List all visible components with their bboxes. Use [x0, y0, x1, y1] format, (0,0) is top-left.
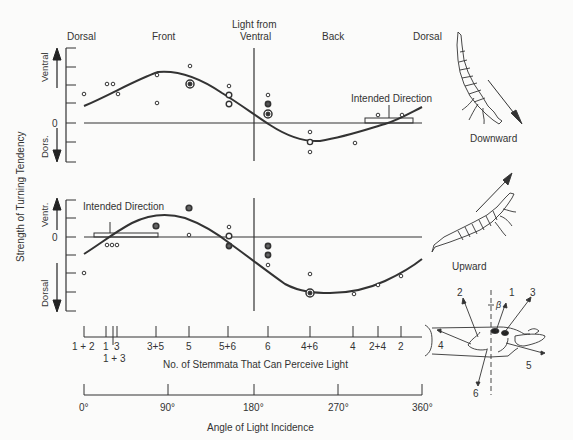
downward-insect-icon [457, 32, 522, 124]
tick-1+3: 1 + 3 [103, 353, 126, 364]
tick-5: 5 [186, 341, 192, 352]
label-light-from: Light from [232, 19, 276, 30]
tick-2+4: 2+4 [369, 341, 386, 352]
upward-label: Upward [452, 261, 486, 272]
angle-tick-360: 360° [412, 402, 433, 413]
stemma-label-4: 4 [438, 340, 444, 351]
label-front: Front [152, 31, 176, 42]
top-zero-label: 0 [52, 118, 58, 129]
stemma-label-5: 5 [526, 360, 532, 371]
top-intended-direction-label: Intended Direction [351, 93, 432, 104]
bottom-dorsal-arrow-icon [53, 263, 61, 312]
angle-axis [84, 384, 422, 395]
angle-axis-title: Angle of Light Incidence [207, 422, 314, 433]
tick-2: 2 [398, 341, 404, 352]
label-dorsal-left: Dorsal [67, 31, 96, 42]
angle-tick-180: 180° [243, 402, 264, 413]
label-dorsal-right: Dorsal [413, 31, 442, 42]
stemma-label-3: 3 [530, 287, 536, 298]
label-back: Back [322, 31, 345, 42]
y-axis-title: Strength of Turning Tendency [15, 132, 26, 262]
bottom-down-label: Dorsal [39, 280, 50, 307]
top-data-points [82, 64, 404, 154]
stemma-label-2: 2 [457, 287, 463, 298]
top-panel [66, 48, 422, 162]
stemma-label-1: 1 [509, 287, 515, 298]
upward-insect-icon [432, 173, 516, 252]
downward-label: Downward [470, 133, 517, 144]
tick-4: 4 [350, 341, 356, 352]
tick-6: 6 [265, 341, 271, 352]
tick-3+5: 3+5 [147, 341, 164, 352]
bottom-up-label: Ventr. [39, 203, 50, 227]
bottom-zero-label: 0 [52, 232, 58, 243]
bottom-data-points [82, 205, 403, 297]
tick-1: 1 [103, 341, 109, 352]
angle-tick-0: 0° [79, 402, 89, 413]
tick-3: 3 [114, 341, 120, 352]
angle-tick-270: 270° [328, 402, 349, 413]
head-diagram-labels: 2 1 3 4 5 6 β [438, 287, 536, 399]
figure-canvas: Dorsal Front Light from Ventral Back Dor… [0, 0, 573, 440]
label-ventral-top: Ventral [240, 31, 271, 42]
tick-1+2: 1 + 2 [72, 341, 95, 352]
bottom-panel [66, 198, 422, 311]
tick-4+6: 4+6 [301, 341, 318, 352]
tick-5+6: 5+6 [219, 341, 236, 352]
top-down-label: Dors. [39, 135, 50, 158]
bottom-ventral-arrow-icon [53, 198, 61, 230]
stemma-label-6: 6 [473, 388, 479, 399]
beta-symbol: β [495, 300, 501, 310]
bottom-intended-direction-label: Intended Direction [83, 201, 164, 212]
top-up-label: Ventral [39, 52, 50, 82]
top-ventral-arrow-icon [53, 48, 61, 88]
angle-tick-90: 90° [160, 402, 175, 413]
top-dorsal-arrow-icon [53, 128, 61, 162]
stemmata-axis-title: No. of Stemmata That Can Perceive Light [163, 359, 348, 370]
